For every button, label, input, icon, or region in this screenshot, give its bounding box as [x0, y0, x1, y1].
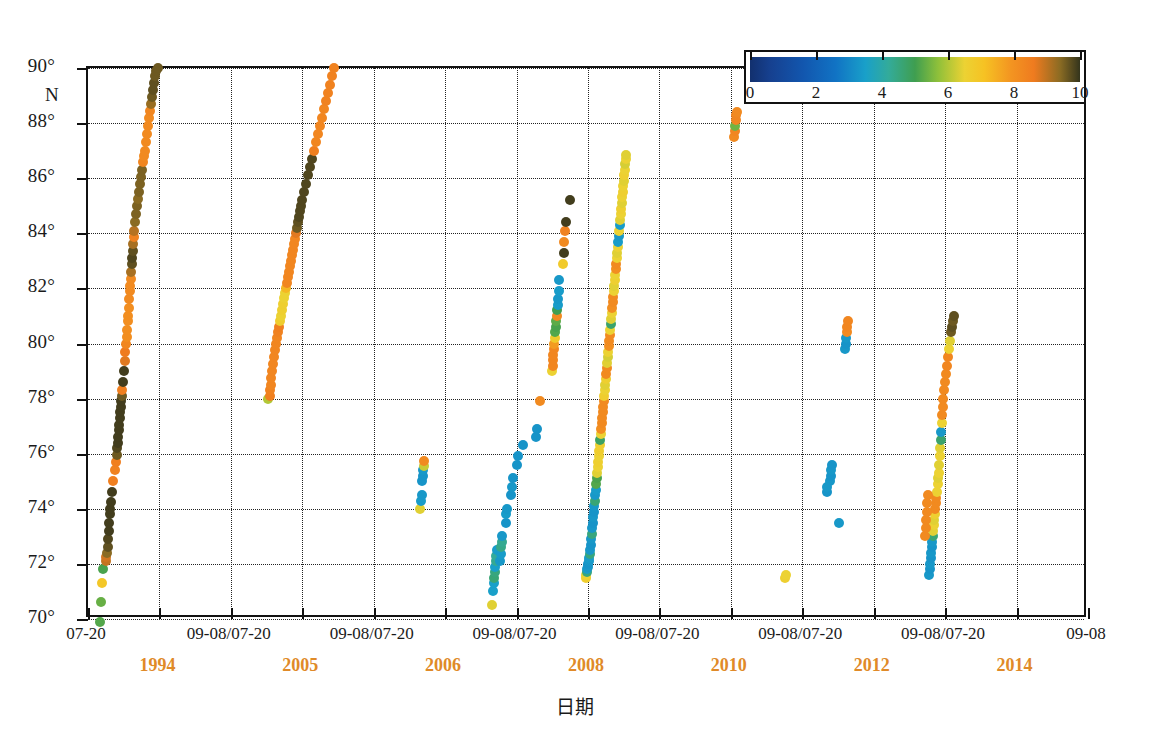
gridline-vertical-minor — [302, 68, 303, 615]
scatter-point — [560, 226, 570, 236]
scatter-point — [535, 396, 545, 406]
y-axis-tick-label: 88° — [0, 111, 55, 130]
gridline-horizontal — [88, 399, 1084, 400]
colorbar-tick — [750, 52, 752, 60]
scatter-point — [107, 487, 117, 497]
scatter-point — [554, 275, 564, 285]
chart-figure: 90°88°86°84°82°80°78°76°74°72°70° N 07-2… — [0, 0, 1149, 754]
y-axis-north-label: N — [45, 84, 59, 106]
scatter-point — [104, 518, 114, 528]
scatter-point — [124, 303, 134, 313]
gridline-vertical — [374, 68, 375, 615]
x-axis-tick — [1088, 608, 1090, 619]
scatter-point — [936, 427, 946, 437]
x-axis-tick — [231, 608, 233, 619]
x-axis-tick — [802, 608, 804, 619]
scatter-point — [559, 237, 569, 247]
scatter-point — [153, 63, 163, 73]
colorbar-tick-label: 8 — [1010, 83, 1019, 103]
y-axis-tick-label: 74° — [0, 497, 55, 516]
scatter-point — [487, 600, 497, 610]
x-axis-tick-minor — [874, 608, 876, 619]
scatter-point — [732, 107, 742, 117]
scatter-point — [325, 80, 335, 90]
y-axis-tick — [77, 564, 88, 566]
scatter-point — [923, 490, 933, 500]
scatter-point — [621, 150, 631, 160]
scatter-point — [501, 518, 511, 528]
gridline-horizontal — [88, 178, 1084, 179]
scatter-point — [106, 497, 116, 507]
gridline-horizontal — [88, 344, 1084, 345]
scatter-point — [108, 476, 118, 486]
gridline-horizontal — [88, 233, 1084, 234]
scatter-point — [834, 518, 844, 528]
x-axis-year-label: 2014 — [997, 655, 1033, 676]
scatter-point — [309, 146, 319, 156]
y-axis-tick — [77, 509, 88, 511]
x-axis-tick — [88, 608, 90, 619]
scatter-point — [827, 460, 837, 470]
y-axis-tick-label: 82° — [0, 276, 55, 295]
x-axis-tick-label: 09-08 — [1066, 624, 1106, 644]
scatter-point — [565, 195, 575, 205]
y-axis-tick-label: 76° — [0, 442, 55, 461]
x-axis-tick — [517, 608, 519, 619]
gridline-vertical-minor — [159, 68, 160, 615]
x-axis-tick-label: 07-20 — [66, 624, 106, 644]
scatter-point — [140, 146, 150, 156]
gridline-vertical-minor — [731, 68, 732, 615]
x-axis-tick-label: 09-08/07-20 — [330, 624, 414, 644]
scatter-point — [561, 217, 571, 227]
scatter-point — [120, 356, 130, 366]
scatter-point — [513, 451, 523, 461]
x-axis-year-label: 2005 — [282, 655, 318, 676]
x-axis-year-label: 1994 — [139, 655, 175, 676]
colorbar-tick — [1080, 52, 1082, 60]
scatter-point — [97, 578, 107, 588]
x-axis-tick-minor — [445, 608, 447, 619]
y-axis-tick — [77, 123, 88, 125]
y-axis-tick-label: 84° — [0, 221, 55, 240]
scatter-point — [119, 366, 129, 376]
gridline-vertical-minor — [1017, 68, 1018, 615]
scatter-point — [518, 440, 528, 450]
x-axis-tick-label: 09-08/07-20 — [615, 624, 699, 644]
x-axis-tick-minor — [159, 608, 161, 619]
scatter-point — [558, 259, 568, 269]
scatter-point — [417, 490, 427, 500]
scatter-point — [419, 456, 429, 466]
gridline-horizontal — [88, 619, 1084, 620]
colorbar-tick-label: 10 — [1072, 83, 1089, 103]
x-axis-tick-label: 09-08/07-20 — [758, 624, 842, 644]
x-axis-tick-minor — [1017, 608, 1019, 619]
y-axis-tick-label: 72° — [0, 552, 55, 571]
scatter-point — [945, 336, 955, 346]
y-axis-tick-label: 86° — [0, 166, 55, 185]
x-axis-year-label: 2006 — [425, 655, 461, 676]
scatter-point — [554, 286, 564, 296]
y-axis-tick — [77, 233, 88, 235]
x-axis-year-label: 2012 — [854, 655, 890, 676]
x-axis-tick — [945, 608, 947, 619]
colorbar-tick-label: 0 — [746, 83, 755, 103]
x-axis-year-label: 2008 — [568, 655, 604, 676]
gridline-horizontal — [88, 288, 1084, 289]
scatter-point — [301, 179, 311, 189]
scatter-point — [329, 63, 339, 73]
scatter-point — [122, 325, 132, 335]
colorbar-tick — [882, 52, 884, 60]
scatter-point — [781, 570, 791, 580]
colorbar-tick — [816, 52, 818, 60]
x-axis-tick — [374, 608, 376, 619]
scatter-point — [508, 473, 518, 483]
x-axis-title: 日期 — [0, 692, 1149, 719]
y-axis-tick — [77, 344, 88, 346]
y-axis-tick-label: 80° — [0, 332, 55, 351]
scatter-point — [938, 394, 948, 404]
colorbar: 0246810 — [744, 50, 1086, 104]
colorbar-tick-label: 2 — [812, 83, 821, 103]
y-axis-tick-label: 78° — [0, 387, 55, 406]
gridline-horizontal — [88, 123, 1084, 124]
gridline-vertical — [659, 68, 660, 615]
